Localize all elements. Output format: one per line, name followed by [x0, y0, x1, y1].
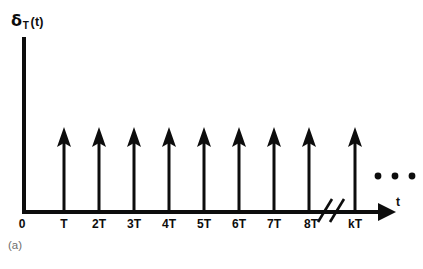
impulse-arrow-8T [302, 127, 316, 212]
ellipsis-dots [375, 173, 416, 180]
panel-caption: (a) [8, 240, 22, 252]
impulse-arrow-3T [127, 127, 141, 212]
tick-label-8T: 8T [304, 218, 318, 230]
tick-label-3T: 3T [127, 218, 141, 230]
delta-argument: (t) [29, 15, 44, 29]
impulse-arrow-6T [232, 127, 246, 212]
tick-label-0: 0 [19, 218, 26, 230]
tick-label-T: T [60, 218, 67, 230]
impulse-arrow-group [57, 127, 362, 212]
impulse-arrow-4T [162, 127, 176, 212]
impulse-arrow-5T [197, 127, 211, 212]
tick-label-5T: 5T [197, 218, 211, 230]
impulse-train-figure: δT(t) t 0 T 2T 3T 4T 5T 6T 7T 8T kT (a) [0, 0, 423, 269]
tick-label-2T: 2T [92, 218, 106, 230]
delta-symbol: δ [11, 11, 22, 30]
tick-label-6T: 6T [232, 218, 246, 230]
impulse-arrow-kT [348, 127, 362, 212]
impulse-arrow-7T [267, 127, 281, 212]
y-axis-label: δT(t) [11, 13, 44, 31]
delta-subscript: T [22, 20, 29, 31]
impulse-arrow-T [57, 127, 71, 212]
tick-label-kT: kT [348, 218, 362, 230]
x-axis-label: t [396, 196, 400, 208]
tick-label-4T: 4T [162, 218, 176, 230]
x-axis-arrowhead [378, 203, 396, 221]
impulse-arrow-2T [92, 127, 106, 212]
tick-label-7T: 7T [267, 218, 281, 230]
